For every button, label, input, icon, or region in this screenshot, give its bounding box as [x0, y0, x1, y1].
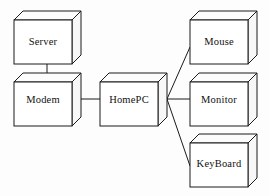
node-server[interactable]: Server: [14, 11, 81, 64]
node-modem[interactable]: Modem: [14, 73, 81, 126]
server-top-face: [14, 11, 81, 20]
keyboard-label: KeyBoard: [197, 158, 242, 169]
keyboard-top-face: [190, 134, 257, 143]
homepc-top-face: [100, 73, 167, 82]
keyboard-right-face: [248, 134, 257, 187]
connector-homepc-keyboard: [167, 99, 190, 166]
mouse-right-face: [248, 11, 257, 64]
monitor-label: Monitor: [201, 94, 237, 105]
mouse-label: Mouse: [204, 36, 234, 47]
node-homepc[interactable]: HomePC: [100, 73, 167, 126]
homepc-label: HomePC: [109, 94, 149, 105]
modem-right-face: [72, 73, 81, 126]
node-monitor[interactable]: Monitor: [190, 73, 257, 126]
modem-top-face: [14, 73, 81, 82]
modem-label: Modem: [26, 94, 60, 105]
diagram-canvas: Server Modem HomePC Mouse Monitor: [0, 0, 270, 196]
connector-homepc-mouse: [167, 47, 190, 99]
monitor-right-face: [248, 73, 257, 126]
diagram-svg: Server Modem HomePC Mouse Monitor: [0, 0, 270, 196]
monitor-top-face: [190, 73, 257, 82]
server-label: Server: [29, 36, 58, 47]
node-keyboard[interactable]: KeyBoard: [190, 134, 257, 187]
homepc-right-face: [158, 73, 167, 126]
mouse-top-face: [190, 11, 257, 20]
server-right-face: [72, 11, 81, 64]
node-mouse[interactable]: Mouse: [190, 11, 257, 64]
